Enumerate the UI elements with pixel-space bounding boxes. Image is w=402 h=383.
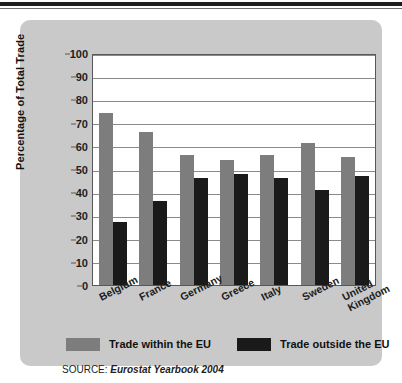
- y-tick-mark-70: [71, 123, 76, 124]
- bar-group: [220, 55, 248, 285]
- bar: [113, 222, 127, 285]
- legend-swatch-outside-eu: [237, 338, 271, 351]
- source-reference: Eurostat Yearbook 2004: [110, 364, 223, 375]
- y-tick-mark-40: [71, 193, 76, 194]
- y-tick-mark-0: [77, 286, 82, 287]
- bar: [99, 113, 113, 285]
- y-tick-mark-20: [71, 239, 76, 240]
- bar-group: [301, 55, 329, 285]
- y-tick-10: 10: [76, 257, 88, 268]
- bar: [260, 155, 274, 285]
- source-note: SOURCE: Eurostat Yearbook 2004: [62, 364, 224, 375]
- y-tick-70: 70: [76, 118, 88, 129]
- bar: [355, 176, 369, 285]
- plot-area: [92, 54, 376, 286]
- x-axis-category-labels: BelgiumFranceGermanyGreeceItalySwedenUni…: [92, 288, 376, 332]
- y-tick-20: 20: [76, 234, 88, 245]
- y-tick-mark-100: [65, 54, 70, 55]
- bar: [194, 178, 208, 285]
- y-tick-50: 50: [76, 165, 88, 176]
- y-tick-0: 0: [82, 281, 88, 292]
- y-tick-mark-80: [71, 100, 76, 101]
- legend-label-outside-eu: Trade outside the EU: [280, 338, 389, 350]
- y-tick-mark-90: [71, 77, 76, 78]
- legend-swatch-within-eu: [66, 338, 100, 351]
- bar: [234, 174, 248, 285]
- chart-panel: Percentage of Total Trade 10090807060504…: [20, 20, 382, 366]
- legend-item-within-eu: Trade within the EU: [66, 338, 211, 351]
- y-tick-mark-50: [71, 170, 76, 171]
- y-tick-60: 60: [76, 141, 88, 152]
- bar-group: [180, 55, 208, 285]
- bar-group: [139, 55, 167, 285]
- bar: [341, 157, 355, 285]
- bar: [315, 190, 329, 285]
- source-prefix: SOURCE:: [62, 364, 108, 375]
- y-axis-title: Percentage of Total Trade: [14, 0, 26, 170]
- bar: [180, 155, 194, 285]
- y-tick-mark-30: [71, 216, 76, 217]
- y-tick-mark-10: [71, 262, 76, 263]
- bar: [153, 201, 167, 285]
- top-divider-rule: [0, 2, 402, 6]
- y-tick-40: 40: [76, 188, 88, 199]
- bar-group: [341, 55, 369, 285]
- top-divider-hairline: [0, 8, 402, 9]
- bar: [220, 160, 234, 285]
- legend-item-outside-eu: Trade outside the EU: [237, 338, 389, 351]
- y-tick-100: 100: [70, 49, 88, 60]
- bar-group: [260, 55, 288, 285]
- y-tick-30: 30: [76, 211, 88, 222]
- y-tick-80: 80: [76, 95, 88, 106]
- y-tick-90: 90: [76, 72, 88, 83]
- legend-label-within-eu: Trade within the EU: [109, 338, 211, 350]
- bar: [139, 132, 153, 285]
- chart-legend: Trade within the EU Trade outside the EU: [66, 336, 386, 352]
- bar: [274, 178, 288, 285]
- y-axis-tick-labels: 1009080706050403020100: [54, 54, 88, 286]
- bar-groups: [93, 55, 375, 285]
- bar-group: [99, 55, 127, 285]
- bar: [301, 143, 315, 285]
- y-tick-mark-60: [71, 146, 76, 147]
